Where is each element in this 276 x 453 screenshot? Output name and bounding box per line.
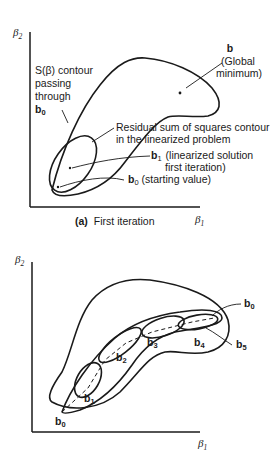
caption-a: (a)First iteration bbox=[75, 215, 155, 227]
b0-label-a: b0(starting value) bbox=[128, 173, 211, 187]
s-contour-b0: b0 bbox=[35, 103, 46, 117]
rss-line2: in the linearized problem bbox=[116, 133, 231, 145]
x-axis-label-b: β1 bbox=[197, 437, 207, 452]
b1-point-a bbox=[69, 167, 71, 169]
y-axis-label-b: β2 bbox=[14, 253, 24, 268]
b5-label-b: b5 bbox=[236, 338, 247, 352]
b4-label-b: b4 bbox=[194, 336, 205, 350]
global-min-b: b bbox=[227, 42, 233, 54]
y-axis-label-a: β2 bbox=[12, 26, 22, 41]
figure-a: β2 β1 b (Global minimum) S(β) contour pa… bbox=[12, 26, 270, 228]
s-contour-line1: S(β) contour bbox=[35, 64, 93, 76]
b1-desc-line2: first iteration) bbox=[165, 161, 226, 173]
leader-b0 bbox=[60, 178, 124, 187]
b0-label-b: b0 bbox=[55, 415, 66, 429]
b1-label-b: b1 bbox=[84, 392, 95, 406]
global-min-line1: (Global bbox=[221, 55, 255, 67]
s-contour-line2: passing bbox=[35, 77, 71, 89]
figure-canvas: β2 β1 b (Global minimum) S(β) contour pa… bbox=[0, 0, 276, 453]
figure-b: β2 β1 b0 b1 b2 b3 b4 b5 b0 bbox=[14, 253, 255, 452]
global-min-line2: minimum) bbox=[216, 67, 262, 79]
rss-linearized-contour bbox=[40, 127, 106, 200]
leader-b0-outer bbox=[212, 304, 241, 316]
rss-line1: Residual sum of squares contour bbox=[116, 121, 270, 133]
b0-point-a bbox=[57, 186, 59, 188]
x-axis-label-a: β1 bbox=[194, 213, 204, 228]
leader-b1 bbox=[72, 156, 150, 168]
leader-s-contour bbox=[62, 110, 68, 123]
leader-rss bbox=[92, 128, 114, 142]
global-minimum-point bbox=[179, 92, 182, 95]
b0-outer-label-b: b0 bbox=[244, 297, 255, 311]
s-contour-line3: through bbox=[35, 90, 71, 102]
